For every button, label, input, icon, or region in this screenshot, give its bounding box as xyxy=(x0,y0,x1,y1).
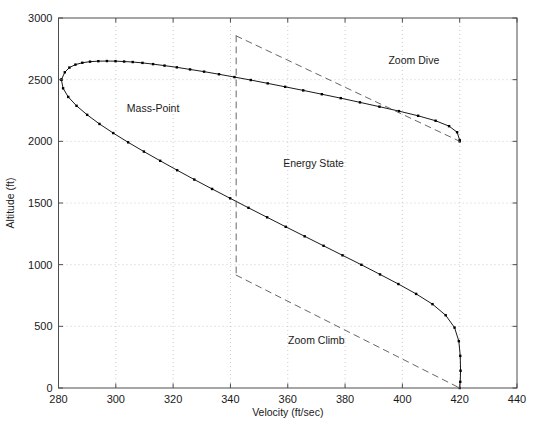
series-marker xyxy=(81,62,83,64)
series-marker xyxy=(132,61,134,63)
series-marker xyxy=(458,340,460,342)
series-marker xyxy=(86,114,88,116)
series-marker xyxy=(64,71,66,73)
chart-background xyxy=(0,0,537,435)
series-marker xyxy=(176,169,178,171)
x-tick-label: 280 xyxy=(49,393,67,405)
series-marker xyxy=(303,235,305,237)
annotation-label: Energy State xyxy=(283,157,344,169)
series-marker xyxy=(106,60,108,62)
x-tick-label: 320 xyxy=(164,393,182,405)
series-marker xyxy=(453,326,455,328)
series-marker xyxy=(444,314,446,316)
chart-canvas: 280300320340360380400420440 050010001500… xyxy=(0,0,537,435)
series-marker xyxy=(229,197,231,199)
x-tick-label: 440 xyxy=(508,393,526,405)
series-marker xyxy=(250,79,252,81)
series-marker xyxy=(89,60,91,62)
x-tick-label: 360 xyxy=(279,393,297,405)
x-tick-label: 400 xyxy=(393,393,411,405)
series-marker xyxy=(321,93,323,95)
x-tick-label: 340 xyxy=(221,393,239,405)
series-marker xyxy=(233,76,235,78)
series-marker xyxy=(285,226,287,228)
series-marker xyxy=(322,245,324,247)
series-marker xyxy=(143,150,145,152)
series-marker xyxy=(379,273,381,275)
series-marker xyxy=(189,68,191,70)
annotation-label: Zoom Dive xyxy=(388,54,439,66)
series-marker xyxy=(114,60,116,62)
series-marker xyxy=(159,160,161,162)
series-marker xyxy=(247,207,249,209)
series-marker xyxy=(141,62,143,64)
y-tick-label: 2000 xyxy=(28,135,52,147)
altitude-velocity-chart: 280300320340360380400420440 050010001500… xyxy=(0,0,537,435)
series-marker xyxy=(456,131,458,133)
series-marker xyxy=(112,132,114,134)
y-tick-label: 1500 xyxy=(28,197,52,209)
x-tick-label: 300 xyxy=(107,393,125,405)
series-marker xyxy=(378,105,380,107)
series-marker xyxy=(434,120,436,122)
x-axis-tick-labels: 280300320340360380400420440 xyxy=(49,393,526,405)
y-tick-label: 0 xyxy=(46,382,52,394)
series-marker xyxy=(123,60,125,62)
series-marker xyxy=(218,73,220,75)
series-marker xyxy=(415,293,417,295)
series-marker xyxy=(266,82,268,84)
series-marker xyxy=(75,105,77,107)
y-axis-title: Altitude (ft) xyxy=(4,178,16,229)
series-marker xyxy=(417,115,419,117)
annotation-label: Zoom Climb xyxy=(288,334,345,346)
series-marker xyxy=(360,264,362,266)
y-tick-label: 2500 xyxy=(28,74,52,86)
series-marker xyxy=(97,60,99,62)
series-marker xyxy=(163,64,165,66)
series-marker xyxy=(152,63,154,65)
series-marker xyxy=(284,86,286,88)
series-marker xyxy=(67,96,69,98)
series-marker xyxy=(68,66,70,68)
series-marker xyxy=(211,188,213,190)
series-marker xyxy=(302,89,304,91)
x-axis-title: Velocity (ft/sec) xyxy=(252,406,323,418)
series-marker xyxy=(359,101,361,103)
series-marker xyxy=(459,355,461,357)
y-tick-label: 3000 xyxy=(28,12,52,24)
series-marker xyxy=(193,178,195,180)
x-tick-label: 380 xyxy=(336,393,354,405)
series-marker xyxy=(266,216,268,218)
series-marker xyxy=(431,303,433,305)
series-marker xyxy=(127,141,129,143)
series-marker xyxy=(459,381,461,383)
series-marker xyxy=(62,87,64,89)
series-marker xyxy=(341,254,343,256)
x-tick-label: 420 xyxy=(451,393,469,405)
annotation-label: Mass-Point xyxy=(127,102,180,114)
y-tick-label: 500 xyxy=(34,320,52,332)
series-marker xyxy=(203,70,205,72)
series-marker xyxy=(98,123,100,125)
series-marker xyxy=(176,66,178,68)
y-tick-label: 1000 xyxy=(28,259,52,271)
series-marker xyxy=(459,370,461,372)
series-marker xyxy=(74,63,76,65)
series-marker xyxy=(448,125,450,127)
series-marker xyxy=(340,97,342,99)
series-marker xyxy=(397,283,399,285)
